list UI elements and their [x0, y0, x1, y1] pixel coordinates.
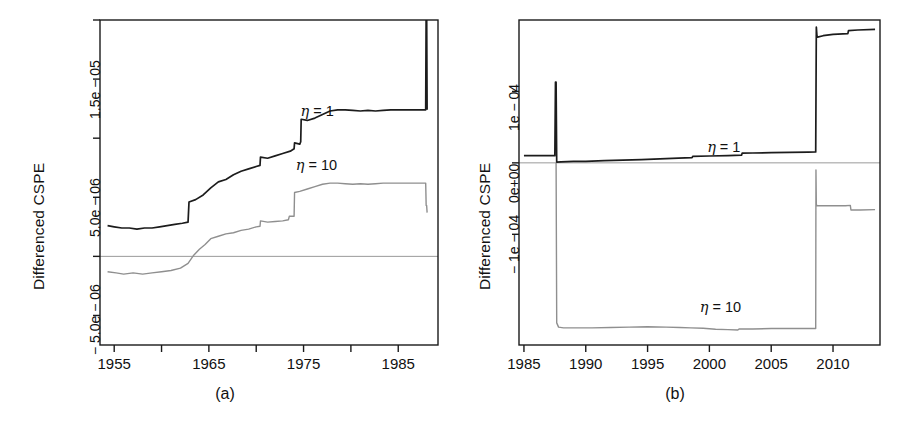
series-annotation-eta-10: η = 10	[700, 299, 741, 315]
panel-b-caption: (b)	[450, 385, 900, 403]
series-annotation-eta-10: η = 10	[296, 157, 337, 173]
x-tick-label: 2010	[798, 355, 868, 372]
series-line-eta-1	[108, 8, 428, 229]
x-tick-label: 2005	[736, 355, 806, 372]
y-tick-label: 5.0e − 06	[87, 178, 103, 237]
panel-b: Differenced CSPE (b) 1985199019952000200…	[450, 0, 900, 424]
panel-a-y-axis-label: Differenced CSPE	[30, 163, 48, 290]
x-tick-label: 1985	[363, 355, 433, 372]
y-tick-label: − 5.0e − 06	[87, 285, 103, 356]
y-tick-label: 1.5e − 05	[87, 60, 103, 119]
series-annotation-eta-1: η = 1	[707, 139, 740, 155]
panel-b-y-axis-label: Differenced CSPE	[476, 163, 494, 290]
y-tick-label: 1e − 04	[506, 84, 522, 131]
series-line-eta-10	[108, 183, 428, 274]
x-tick-label: 1990	[551, 355, 621, 372]
x-tick-label: 1955	[79, 355, 149, 372]
panel-a-caption: (a)	[0, 385, 450, 403]
series-annotation-eta-1: η = 1	[300, 103, 333, 119]
figure-container: Differenced CSPE (a) 1955196519751985− 5…	[0, 0, 900, 424]
x-tick-label: 1975	[269, 355, 339, 372]
plot-box-border	[519, 20, 880, 345]
x-tick-label: 1995	[613, 355, 683, 372]
series-line-eta-1	[524, 27, 875, 162]
x-tick-label: 1985	[489, 355, 559, 372]
y-tick-label: 0e+00	[506, 164, 522, 203]
panel-a: Differenced CSPE (a) 1955196519751985− 5…	[0, 0, 450, 424]
x-tick-label: 1965	[174, 355, 244, 372]
x-tick-label: 2000	[674, 355, 744, 372]
y-tick-label: − 1e − 04	[506, 215, 522, 274]
